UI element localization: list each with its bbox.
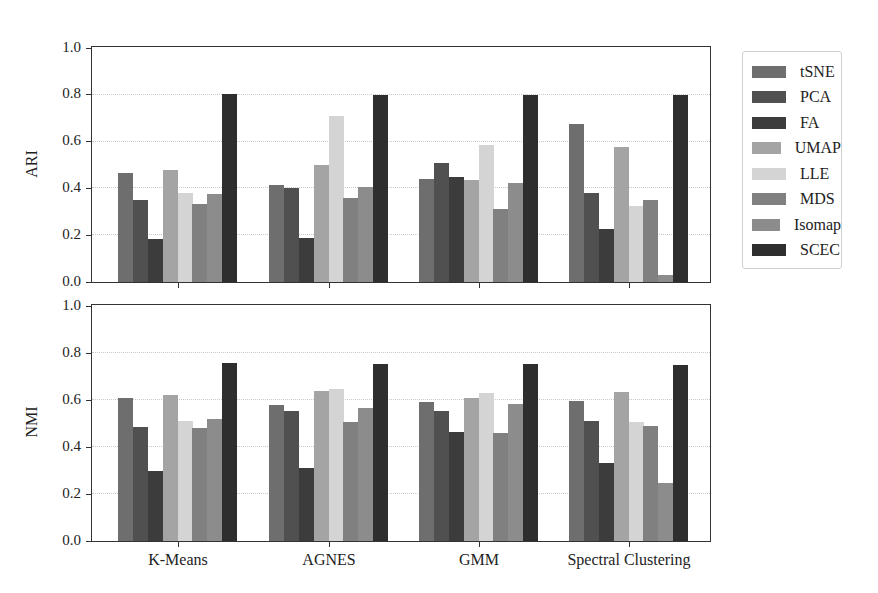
bar-lle <box>479 393 494 541</box>
bar-mds <box>343 198 358 282</box>
legend-item-fa: FA <box>743 110 841 136</box>
y-tick-label: 0.4 <box>41 179 81 196</box>
plot-area-ari <box>91 46 711 283</box>
plot-area-nmi <box>91 304 711 542</box>
bar-tsne <box>118 398 133 541</box>
bar-lle <box>329 389 344 541</box>
bar-isomap <box>358 187 373 282</box>
legend-label: FA <box>800 114 819 132</box>
bar-fa <box>148 471 163 541</box>
bar-mds <box>343 422 358 541</box>
bar-fa <box>449 177 464 282</box>
y-tick-label: 0.2 <box>41 485 81 502</box>
y-tick-label: 0.8 <box>41 344 81 361</box>
legend-item-pca: PCA <box>743 85 841 111</box>
bar-lle <box>479 145 494 282</box>
y-tick-mark <box>86 282 91 283</box>
y-tick-mark <box>86 494 91 495</box>
bar-tsne <box>269 185 284 282</box>
bar-umap <box>314 165 329 282</box>
legend-item-umap: UMAP <box>743 136 841 162</box>
bar-lle <box>178 421 193 541</box>
bar-scec <box>673 365 688 541</box>
bar-mds <box>643 200 658 282</box>
x-tick-mark <box>178 283 179 288</box>
bar-scec <box>373 364 388 541</box>
y-tick-label: 0.6 <box>41 391 81 408</box>
bar-lle <box>629 422 644 541</box>
bar-lle <box>329 116 344 282</box>
x-tick-mark <box>629 283 630 288</box>
y-tick-label: 0.4 <box>41 438 81 455</box>
y-tick-label: 0.2 <box>41 226 81 243</box>
bar-mds <box>192 204 207 282</box>
bar-pca <box>133 200 148 282</box>
y-tick-mark <box>86 541 91 542</box>
bar-isomap <box>358 408 373 541</box>
legend-swatch <box>752 117 786 129</box>
bar-scec <box>523 95 538 282</box>
bar-tsne <box>419 179 434 282</box>
bar-umap <box>464 180 479 282</box>
bar-tsne <box>419 402 434 541</box>
y-tick-label: 0.0 <box>41 273 81 290</box>
bar-isomap <box>508 404 523 541</box>
y-tick-label: 0.0 <box>41 532 81 549</box>
legend-label: tSNE <box>800 63 835 81</box>
bar-lle <box>178 193 193 282</box>
bar-isomap <box>508 183 523 282</box>
legend-swatch <box>752 91 786 103</box>
y-tick-mark <box>86 447 91 448</box>
bar-umap <box>614 392 629 541</box>
y-tick-mark <box>86 306 91 307</box>
y-tick-mark <box>86 400 91 401</box>
bar-fa <box>299 238 314 282</box>
legend-label: Isomap <box>794 216 841 234</box>
gridline <box>92 352 710 353</box>
legend-label: UMAP <box>795 139 841 157</box>
x-tick-mark <box>479 542 480 547</box>
bar-scec <box>222 94 237 282</box>
bar-scec <box>523 364 538 541</box>
bar-tsne <box>569 124 584 282</box>
x-tick-mark <box>329 283 330 288</box>
bar-fa <box>599 229 614 282</box>
gridline <box>92 141 710 142</box>
bar-pca <box>133 427 148 541</box>
y-axis-label: NMI <box>23 392 41 452</box>
y-tick-mark <box>86 141 91 142</box>
bar-mds <box>643 426 658 541</box>
x-tick-mark <box>178 542 179 547</box>
y-tick-mark <box>86 353 91 354</box>
bar-umap <box>614 147 629 282</box>
y-tick-mark <box>86 48 91 49</box>
legend-swatch <box>752 244 786 256</box>
bar-pca <box>434 411 449 541</box>
bar-fa <box>299 468 314 541</box>
bar-pca <box>584 421 599 541</box>
bar-isomap <box>207 194 222 282</box>
bar-scec <box>222 363 237 541</box>
x-tick-mark <box>329 542 330 547</box>
y-tick-label: 0.6 <box>41 132 81 149</box>
legend-label: MDS <box>800 190 835 208</box>
bar-mds <box>493 433 508 541</box>
legend-item-isomap: Isomap <box>743 212 841 238</box>
x-tick-label: Spectral Clustering <box>539 551 719 569</box>
bar-umap <box>163 170 178 282</box>
legend-swatch <box>752 168 786 180</box>
bar-isomap <box>658 483 673 541</box>
bar-umap <box>464 398 479 541</box>
bar-pca <box>434 163 449 282</box>
legend-item-scec: SCEC <box>743 238 841 264</box>
bar-fa <box>449 432 464 541</box>
bar-mds <box>493 209 508 282</box>
legend-item-lle: LLE <box>743 161 841 187</box>
bar-fa <box>599 463 614 541</box>
bar-umap <box>314 391 329 541</box>
legend-label: LLE <box>800 165 829 183</box>
y-axis-label: ARI <box>23 134 41 194</box>
y-tick-mark <box>86 235 91 236</box>
y-tick-label: 0.8 <box>41 85 81 102</box>
x-tick-mark <box>629 542 630 547</box>
